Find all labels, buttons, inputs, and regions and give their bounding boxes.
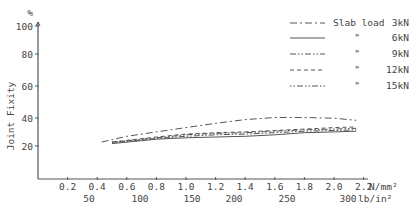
x-tick-label: 0.4 [89,181,106,192]
x-tick-label: 2.0 [325,181,342,192]
legend-value: 3kN [392,17,409,28]
y-tick-label: 20 [22,141,34,152]
x-unit-primary: N/mm² [369,181,398,192]
x-tick-label: 1.4 [237,181,254,192]
x-tick-label: 0.2 [59,181,76,192]
x-tick-label: 1.0 [177,181,194,192]
axes: 20406080100%Joint Fixity0.20.40.60.81.01… [5,7,398,204]
y-unit-label: % [27,7,33,18]
joint-fixity-chart: 20406080100%Joint Fixity0.20.40.60.81.01… [0,0,417,211]
x-unit-secondary: lb/in² [358,193,392,204]
x-tick-secondary-label: 50 [83,193,95,204]
y-tick-label: 80 [22,49,34,60]
legend-value: 9kN [392,48,409,59]
legend-value: 12kN [386,64,409,75]
x-tick-label: 0.8 [148,181,165,192]
legend-value: 6kN [392,32,409,43]
y-tick-label: 60 [22,81,34,92]
x-tick-secondary-label: 100 [131,193,148,204]
y-axis-title: Joint Fixity [5,81,16,150]
x-tick-secondary-label: 250 [278,193,295,204]
legend-value: 15kN [386,80,409,91]
x-tick-label: 1.6 [266,181,283,192]
legend-ditto: " [354,64,360,75]
legend-ditto: " [354,80,360,91]
x-tick-secondary-label: 150 [183,193,200,204]
legend: Slab load3kN"6kN"9kN"12kN"15kN [290,17,409,91]
x-tick-secondary-label: 200 [225,193,242,204]
y-tick-label: 40 [22,113,34,124]
x-tick-label: 1.2 [207,181,224,192]
x-tick-secondary-label: 300 [339,193,356,204]
legend-prefix: Slab load [333,17,384,28]
x-tick-label: 1.8 [296,181,313,192]
legend-ditto: " [354,32,360,43]
series-lines [102,118,357,144]
x-tick-label: 0.6 [118,181,135,192]
legend-ditto: " [354,48,360,59]
y-tick-label: 100 [16,21,33,32]
